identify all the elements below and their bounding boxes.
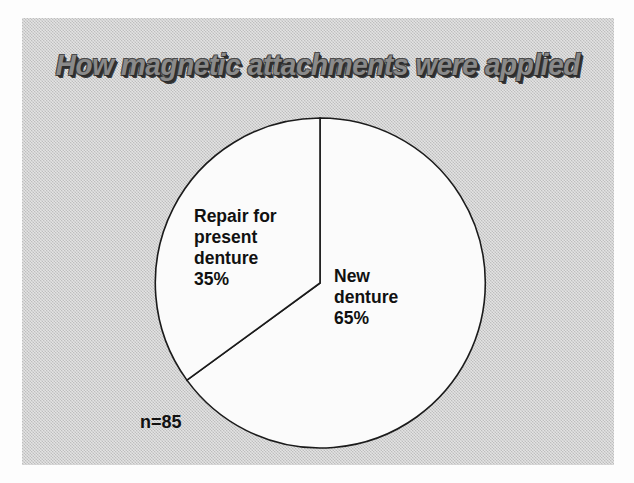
slide-panel: How magnetic attachments were applied Re… (22, 18, 614, 465)
pie-chart: Repair for present denture 35% New dentu… (22, 18, 614, 465)
pie-label-repair-present-denture: Repair for present denture 35% (194, 206, 277, 290)
pie-label-new-denture: New denture 65% (334, 266, 398, 329)
slide-canvas: How magnetic attachments were applied Re… (0, 0, 634, 483)
sample-size-label: n=85 (140, 412, 182, 433)
